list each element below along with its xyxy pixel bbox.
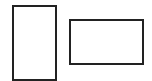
landscape-rectangle — [69, 19, 144, 65]
portrait-rectangle — [12, 5, 57, 81]
